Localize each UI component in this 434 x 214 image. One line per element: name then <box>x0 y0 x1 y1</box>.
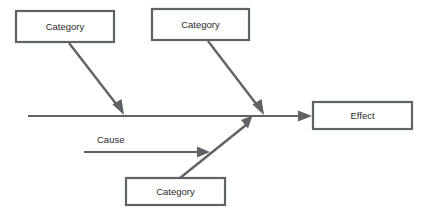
node-category-bottom[interactable]: Category <box>126 178 225 205</box>
node-effect-label: Effect <box>350 110 374 121</box>
cause-label: Cause <box>97 134 124 145</box>
bone-line-top-right <box>208 41 259 107</box>
fishbone-diagram-canvas: Category Category Category Effect Cause <box>0 0 434 214</box>
node-category-top-left[interactable]: Category <box>16 11 114 42</box>
fishbone-diagram-svg: Category Category Category Effect Cause <box>0 0 434 214</box>
node-category-top-right-label: Category <box>181 19 220 30</box>
node-effect[interactable]: Effect <box>313 102 412 129</box>
node-category-top-left-label: Category <box>46 21 85 32</box>
node-category-top-right[interactable]: Category <box>152 9 249 40</box>
main-spine-arrowhead-icon <box>298 111 312 122</box>
bone-line-top-left <box>69 43 119 107</box>
node-category-bottom-label: Category <box>156 186 195 197</box>
